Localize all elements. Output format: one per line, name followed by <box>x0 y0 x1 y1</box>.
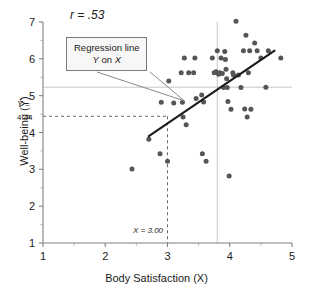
data-point <box>184 122 189 127</box>
data-point <box>199 92 204 97</box>
data-point <box>191 70 196 75</box>
data-point <box>243 33 248 38</box>
x-tick-label: 5 <box>289 250 295 262</box>
data-point <box>158 151 163 156</box>
data-point <box>159 100 164 105</box>
data-point <box>245 115 250 120</box>
data-point <box>192 56 197 61</box>
callout-leader-lines <box>97 72 184 101</box>
data-point <box>186 70 191 75</box>
y-axis-title: Well-being (Y) <box>18 51 30 211</box>
data-point <box>210 56 215 61</box>
data-point <box>166 78 171 83</box>
leader-line-right <box>150 72 184 101</box>
x-axis-title-text: Body Satisfaction (X) <box>105 272 208 284</box>
regression-line <box>149 51 275 136</box>
data-point <box>224 67 229 72</box>
correlation-label: r = .53 <box>70 8 104 22</box>
data-point <box>223 57 228 62</box>
data-point <box>146 137 151 142</box>
data-point <box>225 85 230 90</box>
data-point <box>217 70 222 75</box>
y-tick-label: 1 <box>29 237 35 249</box>
callout-on-text: on <box>99 54 115 65</box>
data-point <box>255 48 260 53</box>
callout-x-var: X <box>115 54 121 65</box>
callout-line-1: Regression line <box>74 42 139 54</box>
x-tick-label: 3 <box>164 250 170 262</box>
x-axis-title: Body Satisfaction (X) <box>0 272 313 284</box>
y-axis-title-text: Well-being (Y) <box>18 96 30 166</box>
data-point <box>228 107 233 112</box>
data-point <box>227 173 232 178</box>
data-point <box>215 48 220 53</box>
data-point <box>130 166 135 171</box>
data-point <box>225 99 230 104</box>
regression-line-stroke <box>149 51 275 136</box>
data-point <box>238 85 243 90</box>
data-point <box>222 49 227 54</box>
data-point <box>233 19 238 24</box>
data-point <box>165 159 170 164</box>
data-point <box>252 41 257 46</box>
data-point <box>179 70 184 75</box>
scatter-plot-figure: 123456712345 r = .53 Regression line Y o… <box>0 0 313 294</box>
data-points-group <box>130 19 284 179</box>
data-point <box>182 56 187 61</box>
data-point <box>248 107 253 112</box>
data-point <box>266 48 271 53</box>
data-point <box>171 101 176 106</box>
data-point <box>263 85 268 90</box>
x-tick-label: 1 <box>40 250 46 262</box>
data-point <box>242 106 247 111</box>
callout-line-2: Y on X <box>74 54 139 66</box>
x-value-label: X = 3.00 <box>133 226 163 235</box>
data-point <box>194 96 199 101</box>
data-point <box>246 70 251 75</box>
data-point <box>200 151 205 156</box>
data-point <box>224 76 229 81</box>
y-tick-label: 7 <box>29 16 35 28</box>
data-point <box>278 56 283 61</box>
data-point <box>204 159 209 164</box>
data-point <box>247 48 252 53</box>
leader-line-left <box>97 72 184 101</box>
plot-canvas: 123456712345 <box>0 0 313 294</box>
regression-callout-box: Regression line Y on X <box>66 37 147 71</box>
data-point <box>241 48 246 53</box>
x-tick-label: 4 <box>227 250 233 262</box>
data-point <box>219 56 224 61</box>
x-tick-label: 2 <box>102 250 108 262</box>
